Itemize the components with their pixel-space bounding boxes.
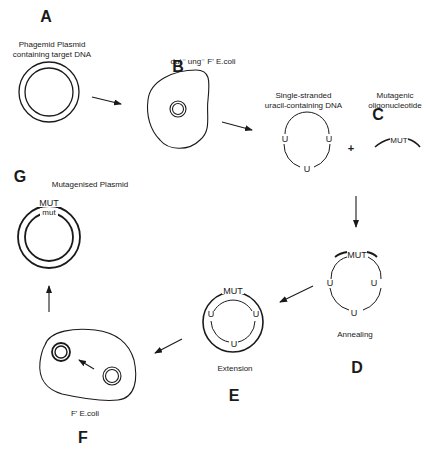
plasmid-a [19, 62, 79, 122]
annealed-d: MUT U U U [327, 250, 381, 318]
ecoli-cell-b [148, 70, 209, 148]
ecoli-cell-f [40, 329, 136, 400]
mut-marker: MUT [347, 250, 367, 260]
uracil-marker: U [326, 134, 333, 144]
uracil-marker: U [327, 278, 334, 288]
uracil-marker: U [351, 308, 358, 318]
uracil-marker: U [304, 164, 311, 174]
arrow-d-to-e [280, 286, 313, 302]
extended-e: MUT U U U [203, 286, 263, 352]
arrow-e-to-f [155, 339, 182, 353]
uracil-marker: U [208, 309, 215, 319]
mut-marker: MUT [39, 198, 59, 208]
mut-lower-marker: mut [42, 208, 56, 217]
arrow-a-to-b [92, 97, 121, 104]
mut-marker: MUT [223, 286, 243, 296]
uracil-marker: U [253, 309, 260, 319]
mutagenised-plasmid-g: MUT mut [18, 198, 80, 268]
mut-marker: MUT [390, 136, 407, 145]
ssdna-c: U U U [282, 112, 333, 174]
diagram-canvas: U U U MUT MUT U U U MUT U U U [0, 0, 430, 454]
uracil-marker: U [282, 134, 289, 144]
uracil-marker: U [371, 278, 378, 288]
uracil-marker: U [231, 339, 238, 349]
oligo-c: MUT [375, 136, 420, 147]
replication-arrow [79, 360, 94, 369]
arrow-b-to-c [222, 122, 252, 130]
